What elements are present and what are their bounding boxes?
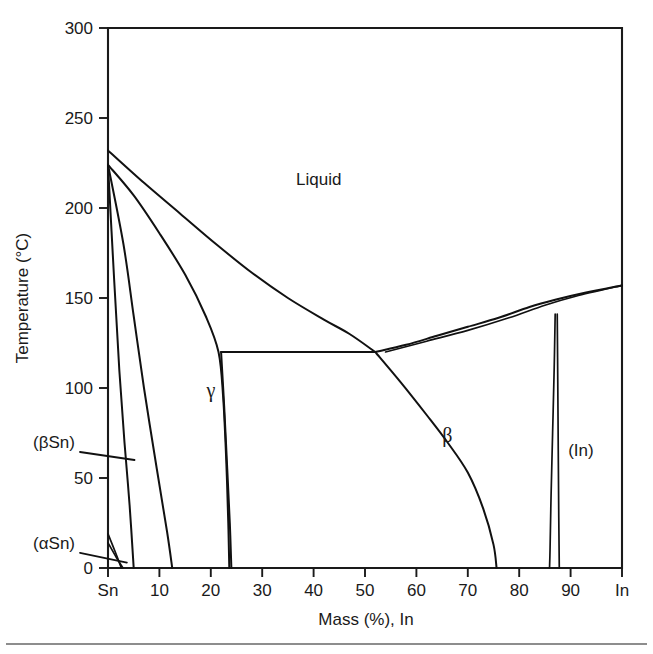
- phase-boundary-curve: [108, 543, 123, 568]
- y-axis-ticks: [99, 28, 108, 568]
- sn-in-phase-diagram: 050100150200250300 Sn102030405060708090I…: [0, 0, 653, 654]
- y-tick-label: 0: [84, 559, 93, 578]
- x-tick-label: 40: [304, 581, 323, 600]
- x-tick-label: In: [615, 581, 629, 600]
- phase-boundary-curve: [375, 285, 622, 352]
- phase-label-alpha-sn: (αSn): [33, 534, 75, 553]
- x-tick-label: 20: [201, 581, 220, 600]
- phase-label-gamma: γ: [205, 379, 215, 402]
- y-axis-tick-labels: 050100150200250300: [65, 19, 93, 578]
- phase-boundaries: [108, 150, 622, 568]
- y-tick-label: 150: [65, 289, 93, 308]
- x-tick-label: 70: [458, 581, 477, 600]
- x-tick-label: 30: [253, 581, 272, 600]
- phase-label-beta: β: [442, 424, 452, 447]
- y-tick-label: 300: [65, 19, 93, 38]
- phase-boundary-curve: [108, 165, 229, 568]
- y-axis-title: Temperature (°C): [13, 233, 32, 364]
- phase-boundary-curve: [557, 314, 559, 568]
- x-tick-label: 90: [561, 581, 580, 600]
- phase-boundary-curve: [108, 165, 172, 568]
- x-axis-title: Mass (%), In: [318, 610, 413, 629]
- x-tick-label: Sn: [98, 581, 119, 600]
- phase-label-in: (In): [568, 441, 594, 460]
- x-axis-tick-labels: Sn102030405060708090In: [98, 581, 629, 600]
- x-tick-label: 10: [150, 581, 169, 600]
- y-tick-label: 50: [74, 469, 93, 488]
- y-tick-label: 100: [65, 379, 93, 398]
- y-tick-label: 250: [65, 109, 93, 128]
- footer-divider: [6, 643, 647, 645]
- phase-boundary-curve: [386, 285, 622, 352]
- phase-boundary-curve: [375, 352, 496, 568]
- phase-label-beta-sn: (βSn): [33, 433, 75, 452]
- phase-boundary-curve: [221, 352, 231, 568]
- x-tick-label: 60: [407, 581, 426, 600]
- plot-frame: [108, 28, 622, 568]
- phase-label-liquid: Liquid: [296, 170, 341, 189]
- phase-boundary-curve: [550, 314, 556, 568]
- y-tick-label: 200: [65, 199, 93, 218]
- figure-container: 050100150200250300 Sn102030405060708090I…: [0, 0, 653, 654]
- x-tick-label: 80: [510, 581, 529, 600]
- x-axis-ticks: [108, 568, 622, 577]
- x-tick-label: 50: [356, 581, 375, 600]
